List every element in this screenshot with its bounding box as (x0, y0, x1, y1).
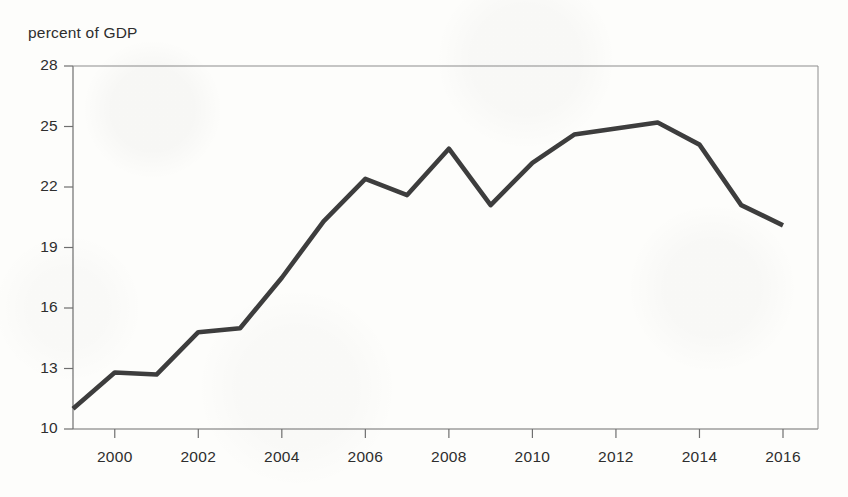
x-tick-label: 2004 (247, 448, 317, 466)
y-tick-label: 19 (18, 238, 58, 256)
x-ticks-group (115, 429, 783, 438)
x-tick-label: 2010 (497, 448, 567, 466)
x-tick-label: 2016 (748, 448, 818, 466)
y-tick-label: 13 (18, 359, 58, 377)
x-tick-label: 2012 (581, 448, 651, 466)
y-tick-label: 10 (18, 419, 58, 437)
y-tick-label: 16 (18, 298, 58, 316)
y-ticks-group (64, 66, 73, 429)
chart-figure: percent of GDP 10131619222528 2000200220… (0, 0, 848, 497)
x-tick-label: 2002 (163, 448, 233, 466)
x-tick-label: 2006 (330, 448, 400, 466)
plot-area (0, 0, 848, 497)
x-tick-label: 2000 (80, 448, 150, 466)
y-tick-label: 22 (18, 177, 58, 195)
y-tick-label: 25 (18, 117, 58, 135)
axes-group (73, 66, 818, 429)
x-tick-label: 2014 (664, 448, 734, 466)
x-tick-label: 2008 (414, 448, 484, 466)
y-tick-label: 28 (18, 56, 58, 74)
data-series-line (73, 122, 783, 408)
